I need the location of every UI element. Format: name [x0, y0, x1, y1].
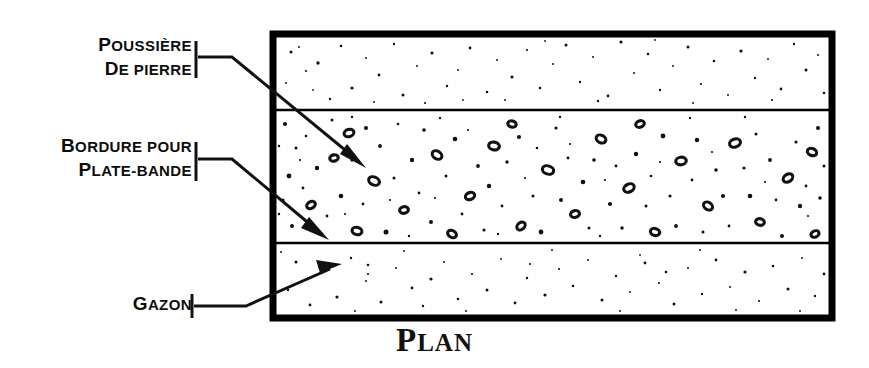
callout-label-poussiere-de-pierre: POUSSIÈRE DE PIERRE: [98, 33, 192, 82]
callout-line-1: GAZON: [133, 292, 192, 316]
figure-caption: PLAN: [0, 322, 869, 359]
callout-label-bordure-pour-plate-bande: BORDURE POUR PLATE-BANDE: [61, 134, 192, 183]
callout-label-gazon: GAZON: [133, 292, 192, 316]
callout-line-1: BORDURE POUR: [61, 134, 192, 158]
figure-caption-word: PLAN: [396, 329, 473, 356]
callout-line-1: POUSSIÈRE: [98, 33, 192, 57]
callout-line-2: PLATE-BANDE: [61, 158, 192, 182]
callout-line-2: DE PIERRE: [98, 57, 192, 81]
